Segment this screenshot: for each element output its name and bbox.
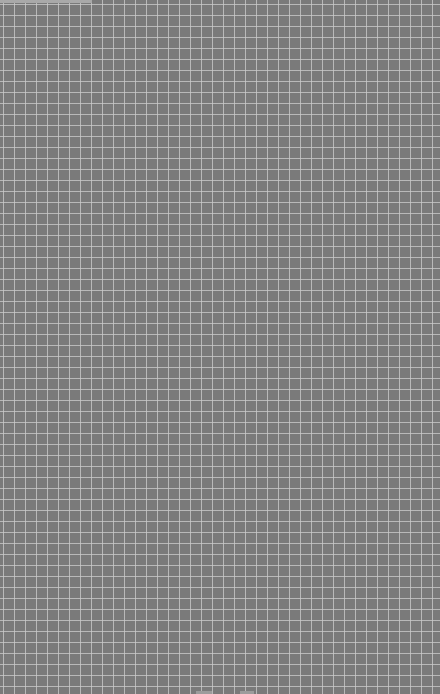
- top-edge-strip: [0, 0, 92, 3]
- grid-canvas: [0, 0, 440, 694]
